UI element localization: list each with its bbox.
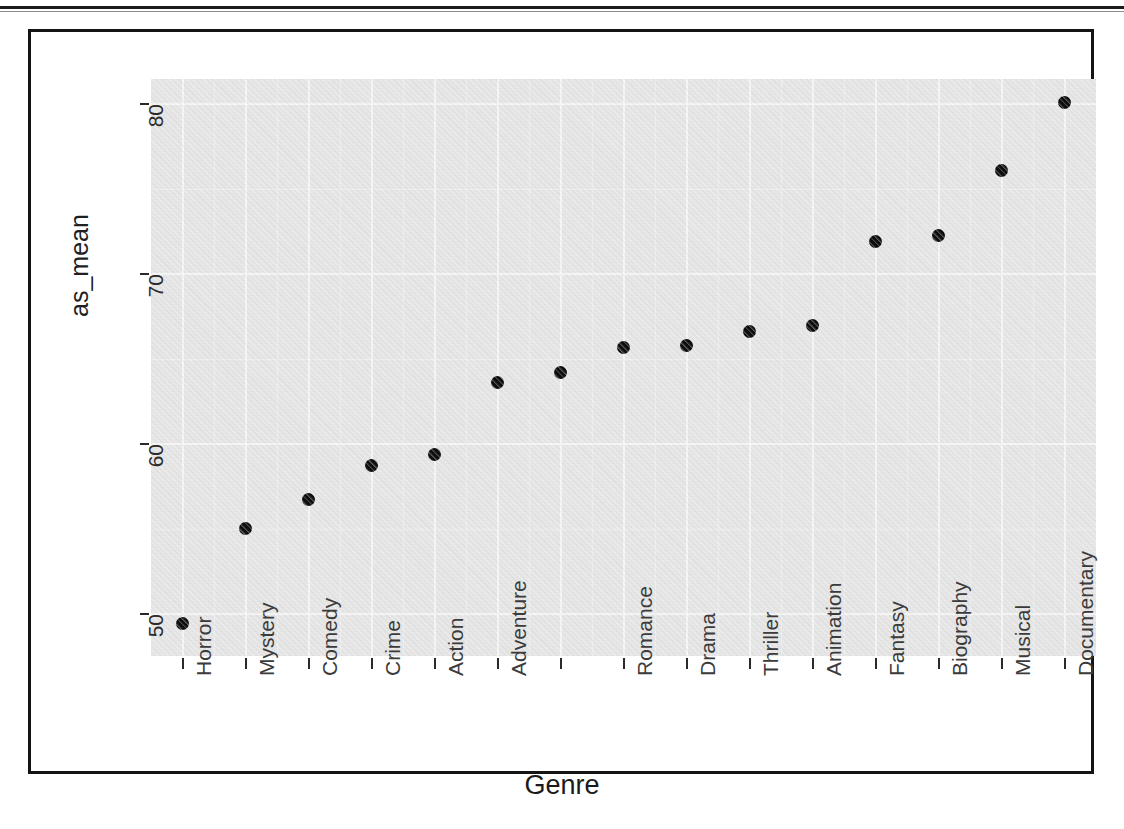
x-axis-title: Genre <box>524 770 599 801</box>
gridline-major-x-14 <box>1064 79 1066 656</box>
data-point <box>239 522 252 535</box>
x-tick-label-adventure: Adventure <box>507 580 531 676</box>
gridline-minor-x-0 <box>214 79 215 656</box>
data-point <box>806 319 819 332</box>
y-axis-title: as_mean <box>65 214 94 317</box>
data-point <box>743 325 756 338</box>
x-tick-mark-6 <box>560 658 562 669</box>
data-point <box>428 448 441 461</box>
data-point <box>932 229 945 242</box>
x-tick-mark-8 <box>686 658 688 669</box>
figure-frame: 50607080 HorrorMysteryComedyCrimeActionA… <box>28 29 1094 774</box>
x-tick-label-mystery: Mystery <box>255 603 279 677</box>
data-point <box>869 235 882 248</box>
gridline-minor-x-9 <box>781 79 782 656</box>
gridline-minor-x-10 <box>844 79 845 656</box>
x-tick-label-comedy: Comedy <box>318 598 342 676</box>
data-point <box>995 164 1008 177</box>
data-point <box>176 617 189 630</box>
gridline-minor-x-7 <box>655 79 656 656</box>
gridline-major-x-2 <box>308 79 310 656</box>
gridline-minor-x-1 <box>277 79 278 656</box>
scan-artifact-rule <box>0 6 1124 9</box>
gridline-major-x-10 <box>812 79 814 656</box>
data-point <box>365 459 378 472</box>
x-tick-mark-10 <box>812 658 814 669</box>
x-tick-label-fantasy: Fantasy <box>885 601 909 676</box>
gridline-major-x-1 <box>245 79 247 656</box>
x-axis-title-wrap: Genre <box>0 770 1124 801</box>
x-tick-label-musical: Musical <box>1011 605 1035 676</box>
x-tick-label-romance: Romance <box>633 586 657 676</box>
gridline-major-x-3 <box>371 79 373 656</box>
data-point <box>1058 96 1071 109</box>
x-tick-label-documentary: Documentary <box>1074 551 1098 676</box>
x-tick-mark-7 <box>623 658 625 669</box>
gridline-minor-x-11 <box>907 79 908 656</box>
data-point <box>680 339 693 352</box>
data-point <box>302 493 315 506</box>
gridline-minor-x-3 <box>403 79 404 656</box>
gridline-major-x-4 <box>434 79 436 656</box>
chart-page: 50607080 HorrorMysteryComedyCrimeActionA… <box>0 0 1124 829</box>
gridline-major-x-8 <box>686 79 688 656</box>
x-tick-label-animation: Animation <box>822 583 846 676</box>
x-tick-label-action: Action <box>444 618 468 676</box>
x-tick-mark-1 <box>245 658 247 669</box>
gridline-major-x-7 <box>623 79 625 656</box>
gridline-minor-x-4 <box>466 79 467 656</box>
x-tick-label-crime: Crime <box>381 620 405 676</box>
gridline-minor-x-5 <box>529 79 530 656</box>
gridline-minor-x-12 <box>970 79 971 656</box>
x-tick-mark-12 <box>938 658 940 669</box>
gridline-minor-x-6 <box>592 79 593 656</box>
gridline-major-x-11 <box>875 79 877 656</box>
x-tick-mark-3 <box>371 658 373 669</box>
gridline-major-x-0 <box>182 79 184 656</box>
x-tick-label-biography: Biography <box>948 581 972 676</box>
gridline-minor-x-8 <box>718 79 719 656</box>
x-tick-label-thriller: Thriller <box>759 612 783 676</box>
gridline-major-x-9 <box>749 79 751 656</box>
data-point <box>554 366 567 379</box>
x-tick-mark-0 <box>182 658 184 669</box>
y-tick-label-50: 50 <box>144 614 168 637</box>
plot-panel <box>151 79 1096 656</box>
x-tick-mark-2 <box>308 658 310 669</box>
x-tick-mark-11 <box>875 658 877 669</box>
gridline-minor-x-2 <box>340 79 341 656</box>
y-tick-label-80: 80 <box>144 104 168 127</box>
x-tick-mark-4 <box>434 658 436 669</box>
gridline-major-x-12 <box>938 79 940 656</box>
data-point <box>617 341 630 354</box>
x-tick-mark-14 <box>1064 658 1066 669</box>
data-point <box>491 376 504 389</box>
x-tick-mark-5 <box>497 658 499 669</box>
scan-artifact-rule-secondary <box>0 11 1124 12</box>
y-tick-label-70: 70 <box>144 274 168 297</box>
x-tick-mark-13 <box>1001 658 1003 669</box>
x-tick-label-drama: Drama <box>696 613 720 676</box>
gridline-major-x-5 <box>497 79 499 656</box>
y-tick-label-60: 60 <box>144 444 168 467</box>
x-tick-mark-9 <box>749 658 751 669</box>
gridline-minor-x-13 <box>1033 79 1034 656</box>
x-tick-label-horror: Horror <box>192 616 216 676</box>
